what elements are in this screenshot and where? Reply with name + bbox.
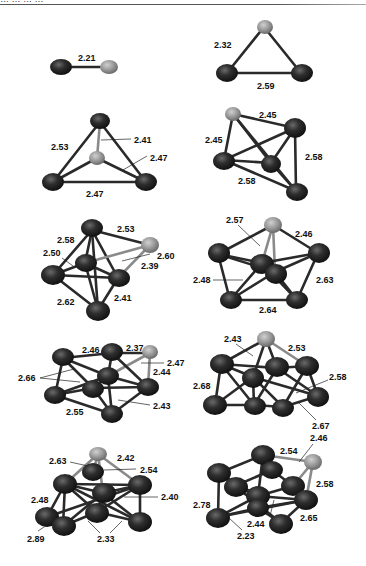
metal-atom <box>82 380 104 398</box>
cluster-dimer: 2.21 <box>50 53 118 75</box>
dopant-atom <box>264 217 282 233</box>
metal-atom <box>210 354 234 374</box>
bond-length-label: 2.67 <box>312 421 330 431</box>
dopant-atom <box>225 107 241 121</box>
metal-atom <box>101 343 123 361</box>
bond-length-label: 2.54 <box>280 446 298 456</box>
metal-atom <box>75 254 97 272</box>
cluster-nonamer: 2.43 2.53 2.68 2.58 2.67 <box>193 331 347 431</box>
metal-atom <box>265 357 289 377</box>
metal-atom <box>294 490 318 510</box>
bond-length-label: 2.37 <box>126 343 144 353</box>
bond-length-label: 2.43 <box>224 334 242 344</box>
bond-length-label: 2.78 <box>193 500 211 510</box>
bond-length-label: 2.68 <box>193 381 211 391</box>
metal-atom <box>81 219 103 237</box>
dopant-atom <box>257 20 273 34</box>
bond-length-label: 2.63 <box>49 456 67 466</box>
bond-length-label: 2.32 <box>214 40 232 50</box>
metal-atom <box>284 118 306 138</box>
metal-atom <box>92 483 116 503</box>
cluster-undecamer: 2.46 2.54 2.58 2.78 2.65 2.44 2.23 <box>193 433 334 541</box>
bond-length-label: 2.53 <box>51 142 69 152</box>
cluster-heptamer: 2.57 2.46 2.48 2.63 2.64 <box>193 215 334 315</box>
metal-atom <box>41 265 65 285</box>
bond-length-label: 2.63 <box>316 275 334 285</box>
metal-atom <box>213 152 235 170</box>
bond-length-label: 2.41 <box>114 293 132 303</box>
cluster-decamer: 2.63 2.42 2.54 2.48 2.40 2.89 2.33 <box>27 447 179 544</box>
metal-atom <box>286 183 308 201</box>
metal-atom <box>50 59 72 75</box>
metal-atom <box>286 291 308 309</box>
dopant-atom <box>257 331 275 347</box>
bond-length-label: 2.62 <box>57 297 75 307</box>
metal-atom <box>128 512 152 532</box>
bond-length-label: 2.58 <box>329 372 347 382</box>
bond-length-label: 2.53 <box>288 343 306 353</box>
metal-atom <box>44 386 66 404</box>
bond-length-label: 2.54 <box>140 465 158 475</box>
bond-length-label: 2.43 <box>153 401 171 411</box>
bond-length-label: 2.58 <box>316 479 334 489</box>
bond-length-label: 2.44 <box>153 367 171 377</box>
bond-length-label: 2.46 <box>310 433 328 443</box>
metal-atom <box>216 64 238 82</box>
metal-atom <box>295 356 319 376</box>
metal-atom <box>261 155 281 173</box>
bond-length-label: 2.44 <box>247 519 265 529</box>
cluster-tetramer: 2.53 2.41 2.47 2.47 <box>42 113 168 199</box>
bond-length-label: 2.42 <box>117 453 135 463</box>
bond-length-label: 2.45 <box>259 110 277 120</box>
metal-atom <box>242 368 264 388</box>
cluster-trimer: 2.32 2.59 <box>214 20 313 91</box>
metal-atom <box>244 397 266 415</box>
metal-atom <box>220 291 242 309</box>
bond-length-label: 2.55 <box>66 407 84 417</box>
bond-length-label: 2.21 <box>78 53 96 63</box>
bond-length-label: 2.66 <box>18 373 36 383</box>
cluster-hexamer: 2.53 2.58 2.50 2.60 2.39 2.62 2.41 <box>41 219 175 321</box>
bond-length-label: 2.47 <box>150 153 168 163</box>
metal-atom <box>265 264 287 284</box>
bond-length-label: 2.50 <box>43 248 61 258</box>
bond-length-label: 2.46 <box>82 345 100 355</box>
bond-length-label: 2.58 <box>305 152 323 162</box>
bond-length-label: 2.58 <box>57 235 75 245</box>
metal-atom <box>85 503 109 523</box>
metal-atom <box>42 173 64 191</box>
dopant-atom <box>89 447 107 461</box>
bond-length-label: 2.33 <box>97 534 115 544</box>
dopant-atom <box>304 454 322 470</box>
bond-length-label: 2.39 <box>141 261 159 271</box>
metal-atom <box>86 301 110 321</box>
bond-length-label: 2.45 <box>205 135 223 145</box>
bond-length-label: 2.89 <box>27 534 45 544</box>
metal-atom <box>52 516 76 536</box>
bond-length-label: 2.65 <box>300 513 318 523</box>
metal-atom <box>272 399 294 417</box>
bond-length-label: 2.64 <box>259 305 277 315</box>
metal-atom <box>208 243 230 263</box>
metal-atom <box>261 461 283 479</box>
bond-length-label: 2.60 <box>157 251 175 261</box>
bond-length-label: 2.47 <box>86 189 104 199</box>
bond-length-label: 2.48 <box>31 495 49 505</box>
metal-atom <box>291 64 313 82</box>
metal-atom <box>224 477 248 497</box>
cluster-figure: 2.21 2.32 2.59 2.53 2.41 2.47 2.47 <box>0 0 366 566</box>
dopant-atom <box>142 345 158 359</box>
metal-atom <box>206 508 230 528</box>
bond-length-label: 2.57 <box>226 215 244 225</box>
dopant-atom <box>89 151 105 165</box>
dopant-atom <box>100 60 118 74</box>
metal-atom <box>101 405 123 423</box>
metal-atom <box>128 475 152 495</box>
bond-length-label: 2.40 <box>161 492 179 502</box>
metal-atom <box>137 378 159 396</box>
bond-length-label: 2.23 <box>237 531 255 541</box>
cluster-octamer: 2.46 2.37 2.47 2.66 2.44 2.43 2.55 <box>18 343 185 423</box>
metal-atom <box>53 474 77 494</box>
metal-atom <box>269 514 293 534</box>
metal-atom <box>307 387 329 407</box>
